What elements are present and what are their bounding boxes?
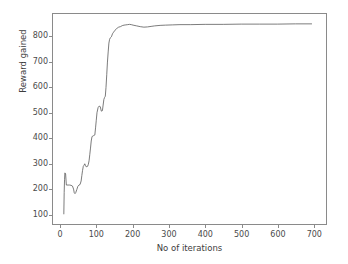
y-tick-label: 700: [8, 58, 48, 66]
chart-figure: 100200300400500600700800 010020030040050…: [0, 0, 348, 264]
x-tick-mark: [205, 225, 206, 228]
x-tick-label: 500: [222, 230, 262, 239]
y-axis-label: Reward gained: [18, 0, 28, 126]
data-series-line: [53, 14, 326, 224]
x-tick-label: 100: [76, 230, 116, 239]
x-tick-label: 300: [149, 230, 189, 239]
plot-area: [52, 13, 327, 225]
y-tick-label: 600: [8, 83, 48, 91]
x-axis-label: No of iterations: [52, 243, 327, 253]
x-tick-mark: [133, 225, 134, 228]
y-tick-label: 400: [8, 134, 48, 142]
x-tick-label: 200: [113, 230, 153, 239]
x-tick-mark: [96, 225, 97, 228]
y-tick-label: 200: [8, 185, 48, 193]
y-tick-label: 100: [8, 211, 48, 219]
x-tick-label: 0: [40, 230, 80, 239]
reward-curve: [64, 24, 312, 214]
y-tick-label: 300: [8, 160, 48, 168]
x-tick-mark: [314, 225, 315, 228]
y-tick-label: 500: [8, 109, 48, 117]
x-tick-mark: [60, 225, 61, 228]
x-tick-label: 400: [185, 230, 225, 239]
x-tick-mark: [169, 225, 170, 228]
y-tick-label: 800: [8, 32, 48, 40]
x-tick-mark: [278, 225, 279, 228]
x-tick-mark: [242, 225, 243, 228]
x-tick-label: 700: [294, 230, 334, 239]
x-tick-label: 600: [258, 230, 298, 239]
